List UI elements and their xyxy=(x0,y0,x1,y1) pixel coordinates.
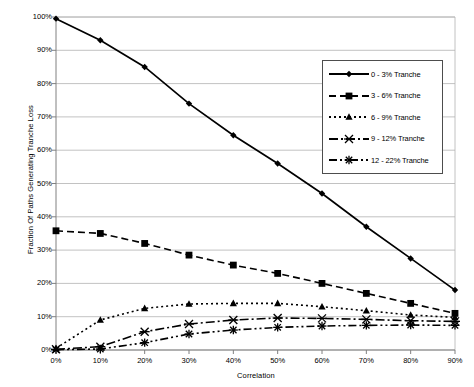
legend-label: 6 - 9% Tranche xyxy=(371,113,420,122)
legend-label: 0 - 3% Tranche xyxy=(371,70,420,79)
legend-sample-icon xyxy=(327,89,371,103)
chart-container: 0%10%20%30%40%50%60%70%80%90%100% 0%10%2… xyxy=(0,0,474,387)
legend-label: 12 - 22% Tranche xyxy=(371,156,429,165)
x-tick-label: 50% xyxy=(263,357,293,365)
legend-sample-icon xyxy=(327,153,371,167)
x-tick-label: 0% xyxy=(41,357,71,365)
legend-sample-icon xyxy=(327,132,371,146)
x-axis-title: Correlation xyxy=(56,371,456,380)
legend-label: 3 - 6% Tranche xyxy=(371,91,420,100)
legend-item: 12 - 22% Tranche xyxy=(327,151,440,169)
data-point-marker xyxy=(346,71,352,77)
legend-swatch xyxy=(327,153,371,167)
x-tick-label: 20% xyxy=(130,357,160,365)
legend-item: 3 - 6% Tranche xyxy=(327,87,440,105)
legend-sample-icon xyxy=(327,67,371,81)
legend-swatch xyxy=(327,132,371,146)
x-tick-label: 60% xyxy=(307,357,337,365)
x-tick-label: 90% xyxy=(440,357,470,365)
legend-label: 9 - 12% Tranche xyxy=(371,134,425,143)
legend-item: 0 - 3% Tranche xyxy=(327,65,440,83)
x-tick-label: 10% xyxy=(85,357,115,365)
y-axis-title: Fraction Of Paths Generating Tranche Los… xyxy=(26,55,35,305)
x-tick-label: 80% xyxy=(396,357,426,365)
data-point-marker xyxy=(346,92,353,99)
legend-swatch xyxy=(327,89,371,103)
x-tick-label: 70% xyxy=(351,357,381,365)
x-tick-label: 30% xyxy=(174,357,204,365)
legend-sample-icon xyxy=(327,110,371,124)
legend-item: 6 - 9% Tranche xyxy=(327,108,440,126)
legend-swatch xyxy=(327,110,371,124)
x-tick-label: 40% xyxy=(218,357,248,365)
chart-legend: 0 - 3% Tranche3 - 6% Tranche6 - 9% Tranc… xyxy=(322,60,443,174)
x-axis-ticks: 0%10%20%30%40%50%60%70%80%90% xyxy=(0,0,474,387)
data-point-marker xyxy=(345,113,352,120)
legend-item: 9 - 12% Tranche xyxy=(327,130,440,148)
legend-swatch xyxy=(327,67,371,81)
